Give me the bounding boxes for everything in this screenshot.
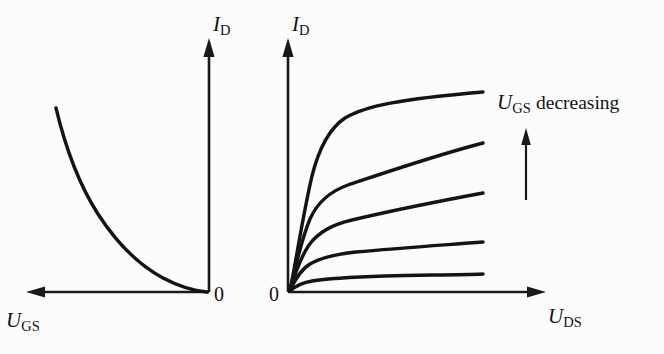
right-x-axis-arrowhead [527,286,546,297]
right-y-axis-symbol: I [292,12,299,36]
annotation-symbol: U [497,90,512,114]
left-y-axis-symbol: I [213,12,220,36]
transfer-characteristic-curve [56,108,207,292]
right-y-axis-label: ID [292,14,310,38]
right-x-axis-symbol: U [548,304,563,328]
right-y-axis-arrowhead [282,38,293,57]
left-y-axis-subscript: D [220,22,231,38]
left-origin-label: 0 [214,284,224,304]
left-x-axis-subscript: GS [21,318,40,334]
left-plot-group [26,38,215,298]
right-origin-label: 0 [269,284,279,304]
right-x-axis-subscript: DS [563,314,582,330]
ugs-decreasing-annotation: UGS decreasing [497,92,619,116]
annotation-subscript: GS [512,100,531,116]
output-curve-2 [290,143,483,290]
left-x-axis-label: UGS [6,310,40,334]
jfet-characteristics-figure: ID UGS 0 ID UDS 0 UGS decreasing [0,0,664,354]
output-curve-4 [290,242,483,290]
figure-canvas [0,0,664,354]
left-y-axis-label: ID [213,14,231,38]
output-curve-5 [290,274,483,291]
annotation-text: decreasing [536,92,619,113]
right-plot-group [282,38,546,298]
left-x-axis-arrowhead [26,286,45,297]
left-y-axis-arrowhead [203,38,214,57]
ugs-decreasing-arrowhead [521,128,531,145]
left-x-axis-symbol: U [6,308,21,332]
right-y-axis-subscript: D [299,22,310,38]
right-x-axis-label: UDS [548,306,582,330]
